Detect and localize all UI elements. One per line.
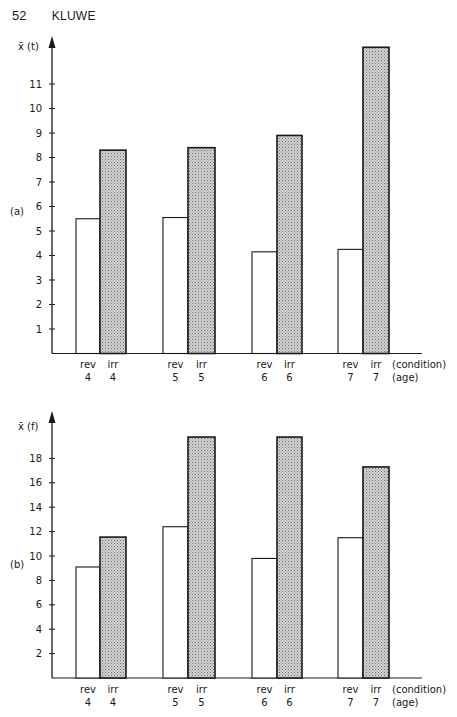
- panel-label: (a): [10, 206, 24, 217]
- x-label-age: 5: [172, 697, 178, 708]
- bar-rev: [76, 219, 100, 354]
- bar-irr: [100, 537, 126, 678]
- bar-irr: [363, 467, 389, 678]
- x-label-age: 6: [286, 697, 292, 708]
- x-label-age: 5: [198, 372, 204, 383]
- bar-irr: [277, 437, 302, 678]
- bars: [76, 437, 389, 678]
- x-axis-title-age: (age): [392, 697, 419, 708]
- x-label-condition: irr: [371, 684, 383, 695]
- bar-rev: [252, 252, 277, 354]
- x-label-condition: rev: [257, 359, 273, 370]
- x-label-age: 4: [85, 697, 91, 708]
- y-ticks: 24681012141618: [29, 453, 55, 659]
- x-label-condition: rev: [257, 684, 273, 695]
- bar-irr: [100, 150, 126, 353]
- x-label-condition: irr: [196, 684, 208, 695]
- y-axis-title: x̄ (f): [18, 421, 39, 432]
- chart-panel-b: x̄ (f) (b) 24681012141618 rev4irr4rev5ir…: [10, 411, 446, 708]
- x-label-age: 7: [347, 372, 353, 383]
- bar-irr: [188, 437, 215, 678]
- x-label-age: 4: [110, 697, 116, 708]
- bar-irr: [363, 47, 389, 353]
- y-axis-arrow-icon: [49, 36, 56, 48]
- x-label-age: 6: [261, 697, 267, 708]
- y-tick-label: 10: [29, 103, 42, 114]
- x-label-condition: irr: [108, 684, 120, 695]
- figure: x̄ (t) (a) 1234567891011 rev4irr4rev5irr…: [0, 0, 457, 717]
- y-tick-label: 16: [29, 477, 42, 488]
- x-label-condition: rev: [168, 684, 184, 695]
- y-tick-label: 4: [36, 250, 42, 261]
- x-label-age: 4: [110, 372, 116, 383]
- x-label-age: 7: [347, 697, 353, 708]
- x-axis-title-condition: (condition): [392, 684, 446, 695]
- x-tick-labels: rev4irr4rev5irr5rev6irr6rev7irr7: [80, 359, 382, 383]
- y-tick-label: 12: [29, 526, 42, 537]
- y-tick-label: 10: [29, 551, 42, 562]
- bars: [76, 47, 389, 353]
- bar-irr: [277, 135, 302, 353]
- y-tick-label: 8: [36, 152, 42, 163]
- y-tick-label: 6: [36, 599, 42, 610]
- y-tick-label: 1: [36, 324, 42, 335]
- y-tick-label: 14: [29, 502, 42, 513]
- x-label-condition: irr: [284, 359, 296, 370]
- y-tick-label: 8: [36, 575, 42, 586]
- bar-rev: [252, 558, 277, 678]
- chart-panel-a: x̄ (t) (a) 1234567891011 rev4irr4rev5irr…: [10, 36, 446, 383]
- x-label-condition: rev: [168, 359, 184, 370]
- bar-rev: [163, 527, 188, 678]
- y-tick-label: 2: [36, 299, 42, 310]
- x-label-condition: irr: [108, 359, 120, 370]
- y-tick-label: 2: [36, 648, 42, 659]
- x-label-age: 7: [373, 697, 379, 708]
- x-label-condition: irr: [371, 359, 383, 370]
- x-label-age: 4: [85, 372, 91, 383]
- x-label-age: 6: [286, 372, 292, 383]
- y-tick-label: 5: [36, 226, 42, 237]
- x-axis-title-condition: (condition): [392, 359, 446, 370]
- x-label-age: 7: [373, 372, 379, 383]
- y-tick-label: 3: [36, 275, 42, 286]
- x-axis-title-age: (age): [392, 372, 419, 383]
- y-ticks: 1234567891011: [29, 79, 55, 335]
- x-label-condition: rev: [343, 359, 359, 370]
- panel-label: (b): [10, 559, 24, 570]
- y-tick-label: 6: [36, 201, 42, 212]
- bar-rev: [163, 218, 188, 354]
- y-tick-label: 18: [29, 453, 42, 464]
- bar-rev: [338, 538, 363, 678]
- y-axis-arrow-icon: [49, 411, 56, 423]
- x-tick-labels: rev4irr4rev5irr5rev6irr6rev7irr7: [80, 684, 382, 708]
- x-label-condition: rev: [80, 359, 96, 370]
- x-label-age: 5: [198, 697, 204, 708]
- y-tick-label: 7: [36, 177, 42, 188]
- bar-rev: [76, 567, 100, 678]
- y-tick-label: 9: [36, 128, 42, 139]
- x-label-age: 6: [261, 372, 267, 383]
- y-axis-title: x̄ (t): [18, 41, 39, 52]
- x-label-age: 5: [172, 372, 178, 383]
- y-tick-label: 4: [36, 624, 42, 635]
- x-label-condition: rev: [343, 684, 359, 695]
- x-label-condition: rev: [80, 684, 96, 695]
- x-label-condition: irr: [196, 359, 208, 370]
- x-label-condition: irr: [284, 684, 296, 695]
- y-tick-label: 11: [29, 79, 42, 90]
- bar-rev: [338, 249, 363, 353]
- bar-irr: [188, 148, 215, 354]
